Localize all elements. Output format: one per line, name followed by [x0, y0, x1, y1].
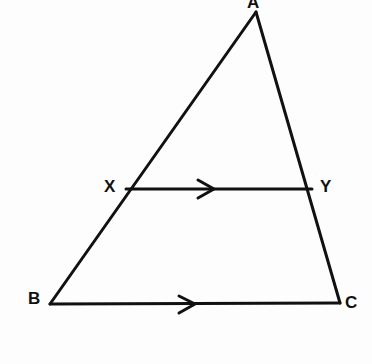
vertex-label-b: B [28, 290, 40, 307]
vertex-label-c: C [345, 294, 357, 311]
vertex-label-a: A [247, 0, 259, 11]
segment-ab [50, 12, 256, 304]
point-label-y: Y [320, 178, 331, 195]
point-label-x: X [104, 178, 115, 195]
segment-ac [256, 12, 340, 303]
triangle-diagram-svg [0, 0, 372, 364]
geometry-figure: A B C X Y [0, 0, 372, 364]
